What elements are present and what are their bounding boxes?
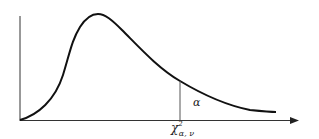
density-curve <box>20 14 276 120</box>
x-axis-arrow-icon <box>290 117 299 124</box>
chi-subscript: α, ν <box>179 129 194 138</box>
critical-value-label: χ2α, ν <box>171 119 198 139</box>
chi-square-diagram <box>0 0 319 139</box>
alpha-area-label: α <box>193 96 200 109</box>
chi-superscript: 2 <box>178 120 182 128</box>
